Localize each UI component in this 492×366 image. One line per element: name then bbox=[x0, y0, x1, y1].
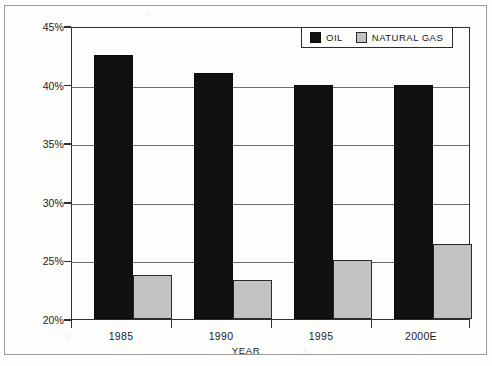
y-tick-label: 35% bbox=[22, 138, 64, 150]
y-tick-label: 45% bbox=[22, 21, 64, 33]
legend-item-natural-gas: NATURAL GAS bbox=[356, 32, 444, 43]
x-tick-mark bbox=[171, 320, 172, 328]
legend-swatch-natural-gas-icon bbox=[356, 32, 367, 43]
bar-oil-1990 bbox=[194, 73, 233, 319]
legend-item-oil: OIL bbox=[310, 32, 343, 43]
y-tick-mark bbox=[64, 85, 71, 87]
x-tick-mark bbox=[371, 320, 372, 328]
x-tick-mark bbox=[271, 320, 272, 328]
bar-gas-1990 bbox=[233, 280, 272, 319]
bar-oil-2000e bbox=[394, 85, 433, 319]
y-tick-mark bbox=[64, 319, 71, 321]
bar-gas-2000e bbox=[433, 244, 472, 319]
bar-gas-1995 bbox=[333, 260, 372, 319]
y-tick-mark bbox=[64, 143, 71, 145]
y-tick-mark bbox=[64, 261, 71, 263]
legend-swatch-oil-icon bbox=[310, 32, 321, 43]
x-tick-label-2000e: 2000E bbox=[405, 330, 437, 342]
legend-label-natural-gas: NATURAL GAS bbox=[372, 32, 444, 43]
x-tick-mark bbox=[71, 320, 72, 328]
y-tick-mark bbox=[64, 26, 71, 28]
bar-gas-1985 bbox=[133, 275, 172, 320]
chart-figure: 45% 40% 35% 30% 25% 20% bbox=[0, 0, 492, 366]
legend-label-oil: OIL bbox=[326, 32, 343, 43]
chart-legend: OIL NATURAL GAS bbox=[301, 27, 453, 48]
x-tick-label-1985: 1985 bbox=[109, 330, 134, 342]
x-tick-label-1990: 1990 bbox=[209, 330, 234, 342]
y-tick-label: 30% bbox=[22, 197, 64, 209]
y-tick-label: 20% bbox=[22, 314, 64, 326]
bar-oil-1985 bbox=[94, 55, 133, 319]
x-tick-mark bbox=[469, 320, 470, 328]
plot-area: OIL NATURAL GAS bbox=[71, 27, 470, 320]
y-tick-label: 40% bbox=[22, 80, 64, 92]
bar-oil-1995 bbox=[294, 85, 333, 319]
y-tick-mark bbox=[64, 202, 71, 204]
x-axis-title: YEAR bbox=[0, 345, 492, 356]
x-tick-label-1995: 1995 bbox=[309, 330, 334, 342]
y-tick-label: 25% bbox=[22, 255, 64, 267]
